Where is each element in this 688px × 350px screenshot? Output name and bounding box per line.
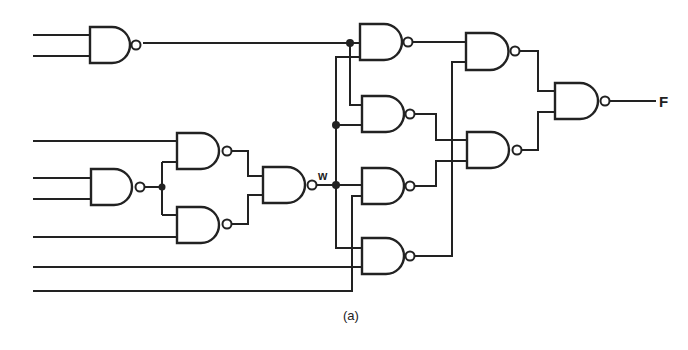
g11-to-g12-wire: [522, 112, 555, 150]
nand-gate-g4: [362, 168, 415, 204]
output-label-f: F: [659, 93, 668, 110]
g6-to-g9-wire: [232, 151, 263, 176]
nand-gate-g8: [91, 169, 145, 205]
junction-dot-w: [332, 181, 340, 189]
g4-to-g11-wire: [415, 161, 467, 186]
g7-to-g9-wire: [232, 195, 263, 224]
g5-to-g10-wire: [415, 62, 466, 256]
wires: [33, 35, 656, 291]
figure-caption: (a): [343, 308, 359, 323]
nand-circuit-diagram: w F (a): [0, 0, 688, 350]
nand-gate-g5: [362, 238, 415, 274]
signal-label-w: w: [317, 169, 328, 183]
nand-gate-g3: [362, 96, 415, 132]
nand-gate-g7: [177, 207, 232, 243]
junction-dot: [346, 39, 354, 47]
g10-to-g12-wire: [520, 51, 555, 91]
junction-dot: [159, 184, 166, 191]
nand-gate-g6: [177, 133, 232, 169]
junction-dot: [332, 121, 340, 129]
nand-gate-g9: [263, 167, 317, 203]
g3-to-g11-wire: [415, 114, 467, 140]
nand-gate-g2: [360, 24, 413, 60]
nand-gate-g10: [466, 33, 520, 70]
nand-gate-g12-final: [555, 83, 610, 119]
nand-gate-g1: [90, 27, 141, 63]
nand-gate-g11: [467, 132, 522, 168]
